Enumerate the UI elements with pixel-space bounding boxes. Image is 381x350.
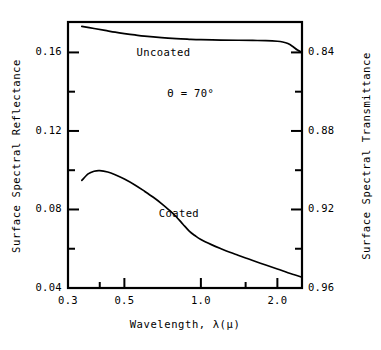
x-axis-title: Wavelength, λ(μ) <box>68 318 302 330</box>
y-axis-title-left: Surface Spectral Reflectance <box>10 36 22 276</box>
figure-root: Surface Spectral Reflectance Surface Spe… <box>0 0 381 350</box>
y-tick-label-left: 0.16 <box>22 45 62 57</box>
plot-frame <box>68 22 302 288</box>
y-tick-label-right: 0.96 <box>308 281 348 293</box>
x-tick-label: 2.0 <box>257 294 297 306</box>
y-tick-label-left: 0.12 <box>22 124 62 136</box>
x-tick-label: 0.3 <box>48 294 88 306</box>
x-tick-label: 0.5 <box>104 294 144 306</box>
data-curves <box>82 26 302 277</box>
curve-coated <box>82 171 302 278</box>
y-tick-label-left: 0.08 <box>22 202 62 214</box>
y-tick-label-right: 0.88 <box>308 124 348 136</box>
curve-uncoated <box>82 26 302 52</box>
curve-label-coated: Coated <box>159 207 199 219</box>
y-tick-label-left: 0.04 <box>22 281 62 293</box>
y-axis-title-right: Surface Spectral Transmittance <box>360 36 372 276</box>
x-tick-label: 1.0 <box>181 294 221 306</box>
curve-label-uncoated: Uncoated <box>137 46 191 58</box>
incidence-angle: Θ = 70° <box>167 87 214 99</box>
y-tick-label-right: 0.92 <box>308 202 348 214</box>
y-tick-label-right: 0.84 <box>308 45 348 57</box>
